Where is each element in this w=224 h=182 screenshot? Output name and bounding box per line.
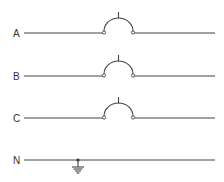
line-c: C — [13, 97, 215, 124]
line-label-n: N — [13, 155, 20, 166]
line-label-c: C — [13, 113, 20, 124]
line-n: N — [13, 155, 215, 173]
breaker-arc-c-icon — [104, 103, 133, 116]
circuit-diagram: A B C N — [0, 0, 224, 182]
line-label-a: A — [13, 28, 20, 39]
line-a: A — [13, 12, 215, 39]
line-b: B — [13, 55, 215, 82]
line-label-b: B — [13, 71, 20, 82]
ground-icon — [72, 158, 84, 173]
breaker-arc-a-icon — [104, 18, 133, 31]
breaker-arc-b-icon — [104, 61, 133, 74]
